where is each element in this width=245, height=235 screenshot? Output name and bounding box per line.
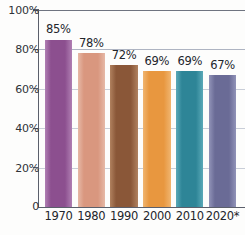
bars-layer: 85%78%72%69%69%67% (38, 10, 245, 207)
bar-group: 67% (209, 10, 236, 207)
bar-group: 85% (45, 10, 72, 207)
y-axis-label-60: 60% (15, 84, 39, 95)
y-axis-label-20: 20% (15, 163, 39, 174)
bar-value-label: 67% (210, 60, 235, 72)
bar-value-label: 78% (79, 38, 104, 50)
bar-2020[interactable] (209, 75, 236, 207)
bar-1990[interactable] (110, 65, 137, 207)
bar-1980[interactable] (78, 53, 105, 207)
x-axis-label-2020: 2020* (203, 211, 242, 223)
bar-2010[interactable] (176, 71, 203, 207)
bar-group: 78% (78, 10, 105, 207)
y-axis-label-80: 80% (15, 44, 39, 55)
bar-group: 72% (110, 10, 137, 207)
bar-group: 69% (143, 10, 170, 207)
y-axis-label-40: 40% (15, 123, 39, 134)
bar-chart: 100% 80% 60% 40% 20% 0 85%78%72%69%69%67… (0, 0, 245, 235)
bar-value-label: 69% (177, 56, 202, 68)
bar-group: 69% (176, 10, 203, 207)
y-axis-label-100: 100% (8, 5, 39, 16)
bar-value-label: 72% (112, 50, 137, 62)
bar-2000[interactable] (143, 71, 170, 207)
bar-value-label: 85% (46, 24, 71, 36)
bar-1970[interactable] (45, 40, 72, 207)
bar-value-label: 69% (145, 56, 170, 68)
